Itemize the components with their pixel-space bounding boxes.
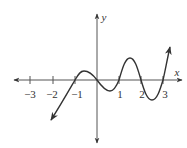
tick-label-neg3: −3: [24, 88, 36, 100]
y-axis-label: y: [101, 11, 107, 23]
tick-label-neg2: −2: [46, 88, 58, 100]
tick-label-neg1: −1: [71, 88, 83, 100]
tick-label-3: 3: [162, 88, 168, 100]
function-graph: −3 −2 −1 1 2 3 x y: [0, 0, 187, 148]
x-axis-label: x: [174, 66, 180, 78]
tick-label-1: 1: [117, 88, 123, 100]
function-curve: [51, 47, 170, 120]
